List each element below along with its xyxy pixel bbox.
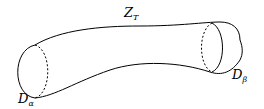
left-disk-label-sub: α xyxy=(28,99,33,108)
right-disk-back-arc xyxy=(202,23,213,72)
tube-label-sub: T xyxy=(133,13,138,22)
tube-label-main: Z xyxy=(124,5,133,20)
left-disk-label-main: D xyxy=(18,91,28,106)
left-disk-label: Dα xyxy=(18,92,34,105)
tube-top-edge xyxy=(35,22,240,45)
tube-right-end xyxy=(240,40,242,60)
tube-label: ZT xyxy=(124,6,138,19)
left-disk-back-arc xyxy=(35,45,48,98)
tube-bottom-edge xyxy=(35,60,240,98)
right-disk-label: Dβ xyxy=(232,68,247,81)
right-disk-label-main: D xyxy=(232,67,242,82)
right-disk-front-arc xyxy=(212,23,223,72)
right-disk-label-sub: β xyxy=(242,75,247,84)
